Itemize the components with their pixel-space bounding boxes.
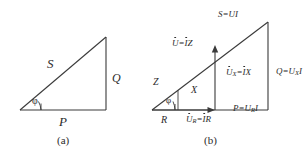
caption-panel-a: (a) (57, 135, 69, 146)
label-voltage-total: U=IZ (172, 39, 193, 48)
caption-panel-b: (b) (204, 135, 217, 146)
label-apparent-power-s-ui: S=UI (218, 10, 238, 19)
i-symbol-r: I (203, 115, 206, 124)
voltage-reactive-arrow-head (212, 45, 218, 53)
label-voltage-reactive: UX=IX (226, 68, 251, 78)
label-apparent-power-s: S (47, 57, 54, 70)
label-angle-phi-b: φ (166, 96, 171, 105)
ur-subscript: R (193, 117, 197, 124)
ux-subscript: X (233, 70, 237, 77)
label-active-power-p-ur-i: P=URI (233, 104, 258, 114)
p-subscript: R (251, 106, 255, 113)
label-reactance-x: X (191, 85, 197, 95)
label-angle-phi-a: φ (32, 96, 38, 106)
label-active-power-p: P (59, 115, 67, 128)
voltage-resistive-arrow-head (208, 107, 216, 113)
label-resistance-r: R (161, 115, 167, 125)
i-symbol-x: I (243, 68, 246, 77)
z-symbol: Z (188, 38, 193, 48)
label-s-ui-text: S=UI (218, 9, 238, 19)
power-triangle-figure: S Q P φ (a) S=UI U=IZ UX=IX Q=UXI P=URI … (0, 0, 308, 160)
i-symbol: I (185, 39, 188, 48)
label-voltage-resistive: UR=IR (186, 115, 211, 125)
q-subscript: X (295, 69, 299, 76)
label-reactive-power-q: Q (112, 72, 121, 84)
label-reactive-power-q-ux-i: Q=UXI (276, 67, 302, 77)
ur-symbol: U (186, 115, 193, 124)
label-impedance-z: Z (153, 77, 159, 87)
u-symbol: U (172, 39, 179, 48)
ux-symbol: U (226, 68, 233, 77)
